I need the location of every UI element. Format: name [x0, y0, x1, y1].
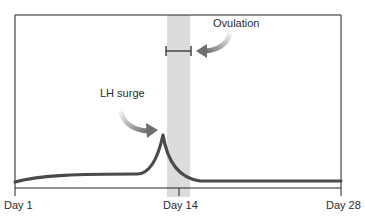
- x-tick-day1: Day 1: [4, 199, 33, 211]
- lh-surge-label: LH surge: [100, 87, 145, 99]
- x-tick-day28: Day 28: [326, 199, 361, 211]
- x-tick-day14: Day 14: [163, 199, 198, 211]
- ovulation-label: Ovulation: [213, 17, 259, 29]
- chart-canvas: [0, 0, 365, 217]
- ovulation-arrow-icon: [196, 30, 230, 58]
- lh-surge-arrow-icon: [120, 108, 158, 138]
